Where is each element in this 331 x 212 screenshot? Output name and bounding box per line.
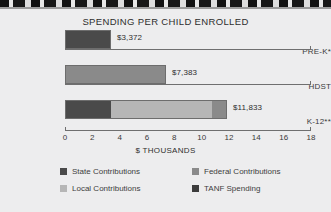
legend-item-tanf-spending[interactable]: TANF Spending	[192, 184, 260, 193]
legend-swatch-tanf-icon	[192, 185, 199, 192]
bar-value-hdst: $7,383	[172, 68, 197, 77]
x-axis-tick-labels: 0 2 4 6 8 10 12 14 16 18	[65, 133, 311, 145]
x-axis-cap-left	[65, 127, 66, 131]
bar-row-hdst: $7,383	[65, 61, 311, 96]
x-axis-line	[65, 130, 311, 131]
legend-swatch-local-icon	[60, 185, 67, 192]
x-tick-10: 10	[197, 133, 206, 142]
legend-label-state: State Contributions	[72, 167, 140, 176]
legend-label-local: Local Contributions	[72, 184, 140, 193]
bar-value-k-12: $11,833	[233, 103, 262, 112]
x-tick-12: 12	[225, 133, 234, 142]
legend-item-federal-contributions[interactable]: Federal Contributions	[192, 167, 280, 176]
row-baseline-hdst	[65, 84, 311, 85]
scanner-edge-line	[0, 7, 331, 9]
scanner-edge-strip	[0, 0, 331, 9]
x-tick-4: 4	[117, 133, 121, 142]
x-axis-cap-right	[310, 127, 311, 131]
x-tick-0: 0	[63, 133, 67, 142]
chart-figure: SPENDING PER CHILD ENROLLED PRE-K* HDST …	[0, 9, 331, 212]
x-tick-14: 14	[252, 133, 261, 142]
x-tick-18: 18	[307, 133, 316, 142]
bar-pre-k[interactable]	[65, 30, 111, 49]
x-axis-title: $ THOUSANDS	[0, 146, 331, 155]
plot-area: $3,372 $7,383 $11,833	[65, 26, 311, 131]
bar-k-12[interactable]	[65, 100, 227, 119]
legend-swatch-state-icon	[60, 168, 67, 175]
legend-item-local-contributions[interactable]: Local Contributions	[60, 184, 140, 193]
x-tick-16: 16	[279, 133, 288, 142]
x-tick-6: 6	[145, 133, 149, 142]
row-baseline-pre-k	[65, 49, 311, 50]
x-tick-8: 8	[172, 133, 176, 142]
legend-item-state-contributions[interactable]: State Contributions	[60, 167, 140, 176]
bar-segment-federal	[212, 101, 226, 118]
chart-legend: State Contributions Federal Contribution…	[60, 167, 310, 201]
row-baseline-cap-hdst	[310, 81, 311, 85]
legend-label-tanf: TANF Spending	[204, 184, 260, 193]
bar-segment-state	[66, 31, 110, 48]
x-tick-2: 2	[90, 133, 94, 142]
bar-row-pre-k: $3,372	[65, 26, 311, 61]
legend-label-federal: Federal Contributions	[204, 167, 280, 176]
bar-segment-federal	[66, 66, 165, 83]
bar-row-k-12: $11,833	[65, 96, 311, 131]
legend-swatch-federal-icon	[192, 168, 199, 175]
bar-segment-state	[66, 101, 111, 118]
row-baseline-cap-pre-k	[310, 46, 311, 50]
bar-hdst[interactable]	[65, 65, 166, 84]
bar-segment-local	[111, 101, 212, 118]
bar-value-pre-k: $3,372	[117, 33, 142, 42]
